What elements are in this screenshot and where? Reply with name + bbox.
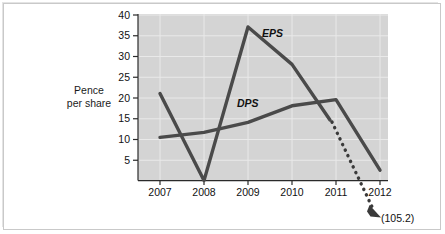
y-tick-label: 25: [118, 71, 130, 83]
y-tick-label: 35: [118, 29, 130, 41]
y-tick-labels: 5 10 15 20 25 30 35 40: [118, 9, 130, 166]
series-label-eps: EPS: [262, 27, 283, 39]
y-tick-label: 10: [118, 133, 130, 145]
y-tick-label: 40: [118, 9, 130, 21]
x-tick-label: 2009: [236, 186, 260, 198]
y-tick-label: 15: [118, 112, 130, 124]
arrow-head-icon: [367, 205, 381, 218]
line-chart: 5 10 15 20 25 30 35 40 2007 2008 2009 20…: [0, 0, 445, 234]
figure-canvas: Pence per share: [0, 0, 445, 234]
y-tick-label: 20: [118, 92, 130, 104]
x-tick-label: 2010: [280, 186, 304, 198]
y-tick-label: 30: [118, 50, 130, 62]
series-label-dps: DPS: [237, 97, 259, 109]
x-tick-labels: 2007 2008 2009 2010 2011 2012: [148, 186, 392, 198]
x-tick-label: 2012: [368, 186, 392, 198]
x-tick-label: 2011: [325, 186, 348, 198]
x-tick-marks: [160, 181, 380, 185]
x-tick-label: 2008: [192, 186, 216, 198]
y-tick-label: 5: [124, 154, 130, 166]
value-annotation: (105.2): [381, 212, 414, 224]
y-tick-marks: [133, 15, 138, 160]
x-tick-label: 2007: [148, 186, 172, 198]
